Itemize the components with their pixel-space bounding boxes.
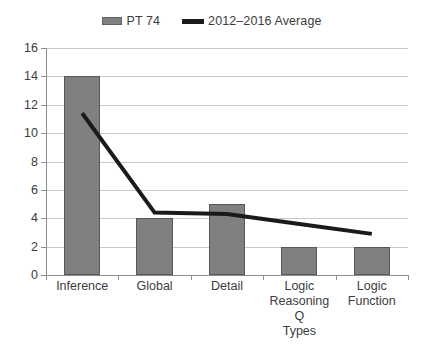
x-axis-line xyxy=(46,275,408,276)
bar-slot xyxy=(191,48,263,275)
bar-detail xyxy=(209,204,245,275)
bar-logic-function xyxy=(354,247,390,275)
y-tick-label-2: 2 xyxy=(0,240,38,253)
bar-slot xyxy=(118,48,190,275)
x-tick-label-line: Types xyxy=(263,324,335,339)
y-axis-ticks: 16 14 12 10 8 6 4 2 0 xyxy=(0,48,40,275)
x-tick-label-line: Detail xyxy=(191,279,263,294)
x-tick-label-line: Reasoning Q xyxy=(263,294,335,324)
y-tick-label-0: 0 xyxy=(0,269,38,282)
y-tick-label-4: 4 xyxy=(0,212,38,225)
x-tick-label-line: Logic xyxy=(336,279,408,294)
y-tick-label-10: 10 xyxy=(0,127,38,140)
legend-label-average: 2012–2016 Average xyxy=(208,14,321,28)
x-tick-label-logic-reasoning-q-types: LogicReasoning QTypes xyxy=(263,279,335,339)
legend-bar-swatch-icon xyxy=(102,17,122,25)
chart-legend: PT 74 2012–2016 Average xyxy=(0,14,424,28)
bar-global xyxy=(136,218,172,275)
x-tick-label-line: Logic xyxy=(263,279,335,294)
x-tick-label-global: Global xyxy=(118,279,190,294)
y-tick-label-8: 8 xyxy=(0,155,38,168)
bar-logic-reasoning-q-types xyxy=(281,247,317,275)
bar-inference xyxy=(64,76,100,275)
y-tick-label-16: 16 xyxy=(0,42,38,55)
x-tick-label-detail: Detail xyxy=(191,279,263,294)
y-tick-label-14: 14 xyxy=(0,70,38,83)
y-tick-label-6: 6 xyxy=(0,184,38,197)
legend-line-swatch-icon xyxy=(182,19,204,24)
x-tick-label-line: Inference xyxy=(46,279,118,294)
legend-label-pt74: PT 74 xyxy=(126,14,160,28)
bar-slot xyxy=(336,48,408,275)
x-tick-label-inference: Inference xyxy=(46,279,118,294)
legend-entry-pt74: PT 74 xyxy=(102,14,160,28)
y-tick-label-12: 12 xyxy=(0,99,38,112)
x-tick-label-line: Global xyxy=(118,279,190,294)
bar-series-pt74 xyxy=(46,48,408,275)
x-tick-mark xyxy=(408,275,409,280)
x-axis-labels: InferenceGlobalDetailLogicReasoning QTyp… xyxy=(46,279,408,341)
legend-entry-average: 2012–2016 Average xyxy=(182,14,321,28)
x-tick-label-logic-function: LogicFunction xyxy=(336,279,408,309)
bar-slot xyxy=(263,48,335,275)
x-tick-label-line: Function xyxy=(336,294,408,309)
chart-container: PT 74 2012–2016 Average 16 14 12 10 8 6 … xyxy=(0,0,424,347)
bar-slot xyxy=(46,48,118,275)
